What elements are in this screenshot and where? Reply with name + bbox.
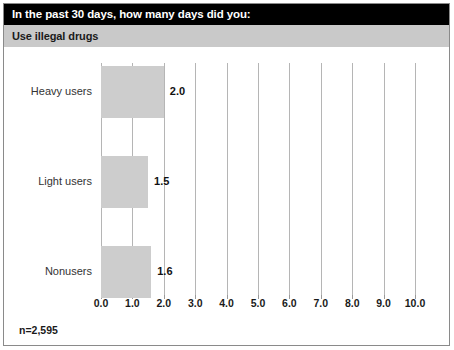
bar-value-nonusers: 1.6 — [157, 265, 172, 277]
bar-heavy-users — [101, 66, 164, 118]
bar-value-light-users: 1.5 — [154, 175, 169, 187]
gridline-9.0 — [384, 63, 385, 295]
gridline-3.0 — [195, 63, 196, 295]
x-tick-label-10.0: 10.0 — [395, 297, 435, 309]
category-label-heavy-users: Heavy users — [12, 85, 92, 97]
chart-title-bar: In the past 30 days, how many days did y… — [4, 4, 449, 25]
bar-light-users — [101, 156, 148, 208]
gridline-4.0 — [227, 63, 228, 295]
sample-size-note: n=2,595 — [19, 324, 58, 336]
chart-frame: In the past 30 days, how many days did y… — [3, 3, 450, 346]
category-label-nonusers: Nonusers — [12, 265, 92, 277]
gridline-10.0 — [415, 63, 416, 295]
bar-nonusers — [101, 246, 151, 298]
category-label-light-users: Light users — [12, 175, 92, 187]
plot-area: 2.01.51.6 Heavy usersLight usersNonusers… — [4, 47, 449, 347]
chart-title-suffix: did you: — [204, 8, 251, 20]
gridline-8.0 — [352, 63, 353, 295]
bar-value-heavy-users: 2.0 — [170, 85, 185, 97]
gridline-5.0 — [258, 63, 259, 295]
gridline-6.0 — [289, 63, 290, 295]
gridline-7.0 — [321, 63, 322, 295]
chart-title-prefix: In the past 30 days, how many — [12, 8, 178, 20]
chart-title-emphasis: days — [178, 8, 204, 20]
chart-subtitle-bar: Use illegal drugs — [4, 25, 449, 47]
